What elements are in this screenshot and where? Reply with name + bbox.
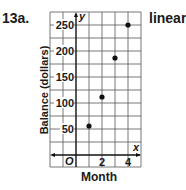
- data-point-month-4: [125, 22, 130, 27]
- data-point-month-3: [112, 55, 117, 60]
- grid: [50, 12, 141, 167]
- y-tick-250: 250: [56, 19, 74, 31]
- data-point-month-1: [86, 123, 91, 128]
- x-tick-labels: 2 4: [99, 156, 132, 168]
- scatter-plot: y x O 250 200 150 100 50 2 4: [0, 0, 186, 190]
- x-tick-2: 2: [99, 156, 105, 168]
- y-tick-50: 50: [62, 123, 74, 135]
- origin-label: O: [65, 155, 74, 167]
- y-tick-labels: 250 200 150 100 50: [54, 19, 74, 135]
- y-tick-100: 100: [56, 97, 74, 109]
- y-tick-150: 150: [56, 71, 74, 83]
- y-tick-200: 200: [56, 45, 74, 57]
- x-tick-4: 4: [125, 156, 132, 168]
- axes: [52, 14, 140, 167]
- y-axis-name: y: [78, 10, 86, 22]
- x-axis-arrow-left-icon: [50, 153, 55, 157]
- y-axis-arrow-icon: [74, 12, 78, 17]
- x-axis-name: x: [132, 141, 140, 153]
- data-point-month-2: [99, 94, 104, 99]
- x-axis-arrow-right-icon: [136, 153, 141, 157]
